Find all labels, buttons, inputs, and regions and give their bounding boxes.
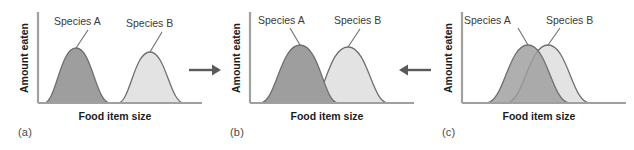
x-axis-label: Food item size bbox=[291, 110, 364, 122]
y-axis-label: Amount eaten bbox=[442, 23, 454, 93]
species-a-curve bbox=[44, 48, 110, 103]
panel-a-caption: (a) bbox=[18, 126, 32, 138]
species-a-curve bbox=[260, 45, 338, 103]
panel-c: Species A Species B Amount eaten Food it… bbox=[434, 0, 634, 150]
species-b-leader-line bbox=[548, 28, 560, 45]
character-displacement-figure: Species A Species B Amount eaten Food it… bbox=[0, 0, 634, 150]
species-b-label: Species B bbox=[126, 17, 173, 29]
species-a-label: Species A bbox=[54, 15, 101, 27]
species-b-curve bbox=[118, 52, 184, 103]
panel-c-plot: Species A Species B Amount eaten Food it… bbox=[434, 0, 634, 150]
species-a-leader-line bbox=[290, 28, 300, 45]
y-axis-label: Amount eaten bbox=[18, 23, 30, 93]
species-b-leader-line bbox=[150, 32, 162, 52]
arrow-c-to-b bbox=[398, 62, 432, 78]
species-a-label: Species A bbox=[258, 14, 305, 26]
panel-a-plot: Species A Species B Amount eaten Food it… bbox=[10, 0, 210, 150]
arrow-a-to-b bbox=[188, 62, 222, 78]
x-axis-label: Food item size bbox=[79, 110, 152, 122]
x-axis-label: Food item size bbox=[503, 110, 576, 122]
panel-b-plot: Species A Species B Amount eaten Food it… bbox=[222, 0, 422, 150]
species-b-label: Species B bbox=[546, 14, 593, 26]
panel-b: Species A Species B Amount eaten Food it… bbox=[222, 0, 422, 150]
species-b-label: Species B bbox=[334, 14, 381, 26]
species-b-leader-line bbox=[348, 29, 360, 47]
species-a-leader-line bbox=[518, 28, 528, 45]
y-axis-label: Amount eaten bbox=[230, 23, 242, 93]
species-a-leader-line bbox=[76, 30, 88, 48]
species-a-label: Species A bbox=[464, 14, 511, 26]
panel-b-caption: (b) bbox=[230, 126, 244, 138]
panel-a: Species A Species B Amount eaten Food it… bbox=[10, 0, 210, 150]
panel-c-caption: (c) bbox=[442, 126, 455, 138]
